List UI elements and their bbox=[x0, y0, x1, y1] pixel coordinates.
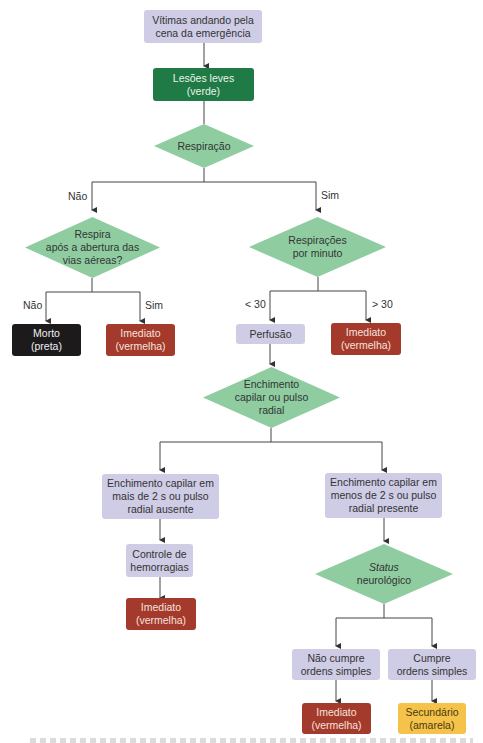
decision-capillary-refill: Enchimento capilar ou pulso radial bbox=[203, 367, 340, 428]
edge-label-breathing-yes: Sim bbox=[321, 189, 339, 201]
edge-label-breathing-no: Não bbox=[68, 190, 87, 202]
node-immediate-red-3: Imediato (vermelha) bbox=[126, 598, 196, 630]
decision-respiratory-rate: Respirações por minuto bbox=[249, 217, 386, 277]
decision-breathing: Respiração bbox=[154, 124, 254, 168]
node-walking-victims: Vítimas andando pela cena da emergência bbox=[144, 10, 262, 43]
node-secondary-yellow: Secundário (amarela) bbox=[398, 703, 466, 734]
edge-label-rate-gt-30: > 30 bbox=[372, 298, 393, 310]
node-minor-injuries-green: Lesões leves (verde) bbox=[153, 68, 254, 101]
edge-label-airway-yes: Sim bbox=[145, 299, 163, 311]
node-obeys-commands: Cumpre ordens simples bbox=[388, 649, 476, 680]
node-immediate-red-1: Imediato (vermelha) bbox=[106, 324, 175, 356]
node-dead-black: Morto (preta) bbox=[12, 324, 81, 356]
edge-label-airway-no: Não bbox=[23, 299, 42, 311]
node-hemorrhage-control: Controle de hemorragias bbox=[126, 544, 193, 577]
node-capillary-over-2s: Enchimento capilar em mais de 2 s ou pul… bbox=[102, 474, 219, 519]
edge-label-rate-lt-30: < 30 bbox=[245, 298, 266, 310]
node-does-not-obey: Não cumpre ordens simples bbox=[292, 649, 380, 680]
neuro-status-italic: Status bbox=[369, 561, 399, 573]
decision-neurological-status: Statusneurológico bbox=[315, 544, 453, 604]
cropped-caption-fragment bbox=[30, 738, 473, 743]
node-capillary-under-2s: Enchimento capilar em menos de 2 s ou pu… bbox=[325, 473, 442, 518]
decision-airway-breathing: Respira após a abertura das vias aéreas? bbox=[25, 217, 160, 278]
node-perfusion: Perfusão bbox=[236, 324, 305, 344]
node-immediate-red-2: Imediato (vermelha) bbox=[331, 323, 401, 355]
neuro-status-label: neurológico bbox=[357, 574, 411, 586]
node-immediate-red-4: Imediato (vermelha) bbox=[302, 703, 371, 734]
